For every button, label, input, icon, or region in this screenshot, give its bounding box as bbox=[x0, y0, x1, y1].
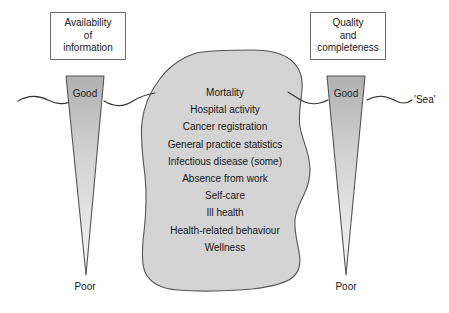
quality-and-completeness-box: Quality and completeness bbox=[310, 12, 386, 60]
quality-box-line-3: completeness bbox=[317, 42, 379, 55]
iceberg-diagram: Availability of information Quality and … bbox=[0, 0, 449, 313]
sea-line-right bbox=[367, 96, 412, 103]
right-scale-poor-label: Poor bbox=[321, 281, 371, 292]
availability-box-line-3: information bbox=[63, 42, 112, 55]
left-availability-triangle bbox=[66, 76, 104, 275]
availability-box-line-1: Availability bbox=[64, 17, 111, 30]
left-scale-good-label: Good bbox=[60, 88, 110, 99]
right-quality-triangle bbox=[327, 76, 365, 275]
quality-box-line-1: Quality bbox=[332, 17, 363, 30]
left-scale-poor-label: Poor bbox=[60, 281, 110, 292]
quality-box-line-2: and bbox=[340, 30, 357, 43]
availability-box-line-2: of bbox=[84, 30, 92, 43]
iceberg-shape bbox=[141, 50, 310, 291]
sea-label: 'Sea' bbox=[414, 94, 436, 105]
availability-of-information-box: Availability of information bbox=[50, 12, 126, 60]
right-scale-good-label: Good bbox=[321, 88, 371, 99]
